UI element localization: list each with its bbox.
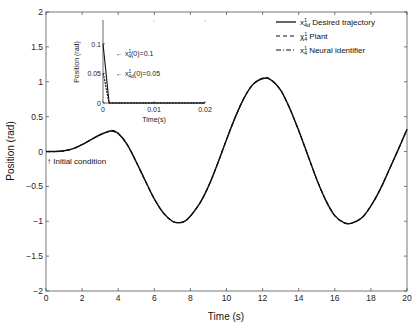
x-tick-label: 20 (402, 293, 412, 303)
legend-item-desired: x14dDesired trajectory (300, 17, 375, 28)
inset-y-tick-label: 0 (97, 100, 101, 107)
initial-condition-annotation: ↑ Initial condition (47, 157, 106, 166)
inset-chart: 00.010.020.10.050 Time(s) Position (rad)… (73, 20, 212, 124)
legend-item-plant: χ14Plant (300, 31, 328, 42)
y-tick-label: 0.5 (31, 112, 43, 122)
x-tick-label: 6 (152, 293, 157, 303)
inset-x-tick-label: 0.01 (147, 106, 161, 113)
legend: x14dDesired trajectory χ14Plant x14Neura… (276, 17, 375, 56)
y-tick-label: 1 (38, 77, 43, 87)
x-tick-label: 8 (188, 293, 193, 303)
x-tick-label: 0 (44, 293, 49, 303)
x-tick-label: 14 (294, 293, 304, 303)
x-tick-label: 12 (258, 293, 268, 303)
inset-x-tick-label: 0 (101, 106, 105, 113)
inset-x-tick-label: 0.02 (198, 106, 212, 113)
y-tick-label: 2 (38, 7, 43, 17)
x-tick-label: 2 (80, 293, 85, 303)
inset-series-line (103, 73, 205, 103)
inset-annotation-desired-initial: ← x14d(0)=0.05 (116, 68, 160, 79)
legend-item-neural-identifier: x14Neural identifier (300, 45, 365, 56)
x-tick-label: 16 (330, 293, 340, 303)
x-tick-label: 18 (366, 293, 376, 303)
y-tick-label: −2 (33, 286, 43, 296)
x-axis-label: Time (s) (208, 311, 244, 322)
trajectory-chart: 0246810121416182021.510.50−0.5−1−1.5−2 T… (0, 0, 413, 331)
y-tick-label: −1.5 (26, 251, 43, 261)
inset-y-tick-label: 0.05 (87, 70, 101, 77)
inset-y-tick-label: 0.1 (91, 41, 101, 48)
inset-y-label: Position (rad) (73, 41, 81, 83)
y-tick-label: −1 (33, 216, 43, 226)
x-tick-label: 4 (116, 293, 121, 303)
y-tick-label: 0 (38, 147, 43, 157)
inset-ticks: 00.010.020.10.050 (87, 20, 212, 113)
inset-x-label: Time(s) (142, 116, 165, 124)
y-axis-label: Position (rad) (5, 121, 16, 180)
y-tick-label: −0.5 (26, 181, 43, 191)
inset-annotation-plant-initial: ← x14(0)=0.1 (116, 48, 153, 59)
x-tick-label: 10 (222, 293, 232, 303)
y-tick-label: 1.5 (31, 42, 43, 52)
